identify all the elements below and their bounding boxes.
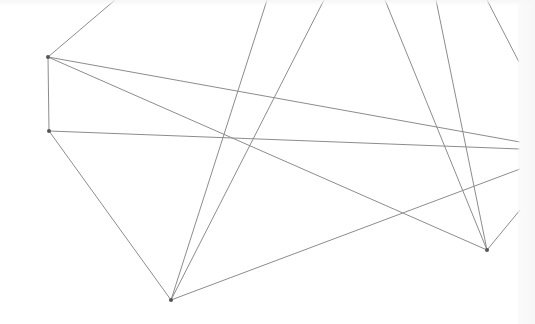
edge-1 xyxy=(48,57,49,131)
edge-5 xyxy=(49,131,171,300)
right-edge-fade xyxy=(518,0,535,324)
node-C xyxy=(169,298,173,302)
edge-group xyxy=(48,0,520,300)
edge-7 xyxy=(171,0,324,300)
edge-8 xyxy=(171,169,520,300)
edge-0 xyxy=(48,0,115,57)
network-diagram xyxy=(0,0,535,324)
node-B xyxy=(47,129,51,133)
node-A xyxy=(46,55,50,59)
edge-10 xyxy=(436,0,487,250)
edge-4 xyxy=(49,131,520,149)
top-edge-fade xyxy=(0,0,535,6)
edge-6 xyxy=(171,0,267,300)
edge-9 xyxy=(385,0,487,250)
edge-11 xyxy=(487,210,520,250)
node-D xyxy=(485,248,489,252)
edge-12 xyxy=(487,0,519,62)
edge-2 xyxy=(48,57,520,142)
